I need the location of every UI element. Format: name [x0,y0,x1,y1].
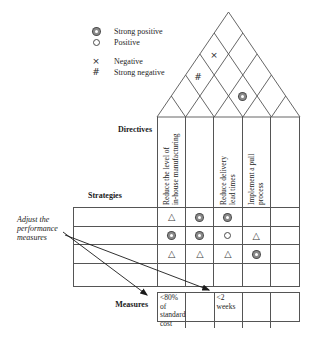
roof-negative-symbol: × [208,49,220,61]
roof-strong-negative-symbol: # [192,71,204,83]
matrix-cell [271,245,299,264]
legend-item: × Negative [84,56,143,67]
matrix-cell [186,264,214,286]
legend-label: Positive [114,38,140,47]
legend-item: Positive [84,37,140,48]
matrix-cell [271,208,299,227]
directive-column-title: Reduce delivery lead times [220,121,237,205]
matrix-cell [214,208,242,227]
matrix-cell: △ [214,245,242,264]
directives-label: Directives [99,125,152,134]
directive-column-title: Implement a pull process [248,121,265,205]
matrix-cell [186,208,214,227]
legend-item: Strong positive [84,26,163,37]
matrix-cell [214,227,242,245]
strategy-row-label [74,245,158,264]
matrix-cell [243,208,271,227]
roof-strong-positive-symbol [236,90,248,102]
legend-item: # Strong negative [84,67,164,78]
measure-cell: <80% of standard cost [158,293,186,328]
qfd-house-of-quality: Strong positive Positive × Negative # St… [0,0,320,337]
legend-label: Strong positive [114,27,163,36]
directive-column [271,117,299,207]
matrix-cell [158,264,186,286]
strong-negative-icon: # [84,67,108,78]
relationship-matrix: △ △ △ △ △ [73,207,300,287]
matrix-cell [214,264,242,286]
measure-cell [243,293,271,328]
adjust-performance-measures-note: Adjust the performance measures [17,215,69,242]
strategy-row-label [74,264,158,286]
measure-cell: <2 weeks [215,293,243,328]
measures-label: Measures [100,300,148,309]
matrix-cell: △ [158,245,186,264]
roof-correlation-lattice [157,12,300,117]
positive-icon [84,37,108,48]
matrix-cell: △ [186,245,214,264]
matrix-cell [243,264,271,286]
strategies-label: Strategies [88,191,122,200]
measure-cell [271,293,299,328]
strategy-row-label [74,208,158,227]
matrix-cell [243,245,271,264]
directive-column [186,117,214,207]
strong-positive-icon [84,26,108,37]
measure-cell [186,293,214,328]
directive-column-title: Reduce the level of in-house manufacturi… [163,121,180,205]
matrix-cell [186,227,214,245]
legend-label: Negative [114,57,143,66]
matrix-cell [271,227,299,245]
legend-label: Strong negative [114,68,164,77]
strategy-row-label [74,227,158,245]
matrix-cell: △ [158,208,186,227]
negative-icon: × [84,56,108,67]
matrix-cell: △ [243,227,271,245]
matrix-cell [158,227,186,245]
measures-row: <80% of standard cost <2 weeks [157,292,300,322]
matrix-cell [271,264,299,286]
